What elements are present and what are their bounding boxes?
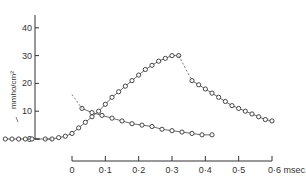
x-tick-label: 0·5 bbox=[232, 165, 245, 175]
data-point bbox=[110, 95, 114, 99]
stray-mark bbox=[16, 117, 18, 122]
data-point bbox=[170, 129, 174, 133]
data-point bbox=[177, 54, 181, 58]
data-point bbox=[90, 110, 94, 114]
data-point bbox=[223, 99, 227, 103]
data-point bbox=[163, 56, 167, 60]
data-point bbox=[243, 109, 247, 113]
data-point bbox=[77, 126, 81, 130]
data-point bbox=[103, 102, 107, 106]
data-point bbox=[150, 124, 154, 128]
data-point bbox=[130, 79, 134, 83]
x-tick-label: 0·1 bbox=[99, 165, 112, 175]
x-tick-label: 0·4 bbox=[199, 165, 212, 175]
data-point bbox=[3, 137, 7, 141]
data-point bbox=[90, 115, 94, 119]
data-point bbox=[117, 90, 121, 94]
data-point bbox=[257, 115, 261, 119]
data-point bbox=[263, 117, 267, 121]
data-point bbox=[210, 91, 214, 95]
data-point bbox=[270, 119, 274, 123]
dashed-connector bbox=[179, 56, 192, 81]
x-tick-label: 0 bbox=[69, 165, 74, 175]
data-point bbox=[237, 106, 241, 110]
data-point bbox=[197, 83, 201, 87]
data-point bbox=[97, 109, 101, 113]
data-point bbox=[200, 133, 204, 137]
data-point bbox=[83, 120, 87, 124]
data-point bbox=[230, 104, 234, 108]
data-point bbox=[170, 54, 174, 58]
data-point bbox=[203, 87, 207, 91]
data-point bbox=[250, 112, 254, 116]
data-point bbox=[150, 63, 154, 67]
data-point bbox=[180, 130, 184, 134]
data-point bbox=[137, 73, 141, 77]
conductance-chart: 010203040mmho/cm²00·10·20·30·40·50·6 mse… bbox=[0, 0, 306, 193]
data-point bbox=[157, 59, 161, 63]
data-point bbox=[57, 136, 61, 140]
x-tick-label: 0·3 bbox=[165, 165, 178, 175]
y-axis-label: mmho/cm² bbox=[9, 71, 18, 109]
data-point bbox=[110, 116, 114, 120]
y-tick-label: 10 bbox=[22, 106, 32, 116]
data-point bbox=[130, 122, 134, 126]
data-point bbox=[123, 84, 127, 88]
y-tick-label: 20 bbox=[22, 78, 32, 88]
data-point bbox=[63, 134, 67, 138]
data-point bbox=[143, 67, 147, 71]
data-point bbox=[23, 137, 27, 141]
data-point bbox=[70, 131, 74, 135]
data-point bbox=[120, 119, 124, 123]
data-point bbox=[100, 113, 104, 117]
x-tick-label: 0·6 msec. bbox=[268, 165, 306, 175]
data-point bbox=[17, 137, 21, 141]
data-point bbox=[210, 133, 214, 137]
data-point bbox=[217, 95, 221, 99]
data-point bbox=[140, 123, 144, 127]
data-point bbox=[190, 131, 194, 135]
y-tick-label: 30 bbox=[22, 51, 32, 61]
data-point bbox=[30, 137, 34, 141]
data-point bbox=[10, 137, 14, 141]
y-tick-label: 40 bbox=[22, 23, 32, 33]
data-point bbox=[160, 127, 164, 131]
series-line bbox=[82, 108, 212, 134]
dashed-connector bbox=[72, 95, 82, 109]
x-tick-label: 0·2 bbox=[132, 165, 145, 175]
